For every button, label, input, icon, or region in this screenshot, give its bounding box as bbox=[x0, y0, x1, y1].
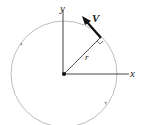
circular-motion-diagram: y x r V bbox=[0, 0, 141, 125]
radius-label: r bbox=[85, 52, 89, 62]
origin-dot bbox=[62, 72, 66, 76]
y-axis-label: y bbox=[59, 2, 65, 14]
velocity-vector bbox=[87, 22, 101, 38]
velocity-label: V bbox=[92, 12, 101, 24]
x-axis-label: x bbox=[129, 67, 135, 79]
path-direction-arrow-right bbox=[105, 102, 108, 105]
right-angle-marker bbox=[97, 41, 103, 44]
radius-line bbox=[64, 38, 100, 74]
